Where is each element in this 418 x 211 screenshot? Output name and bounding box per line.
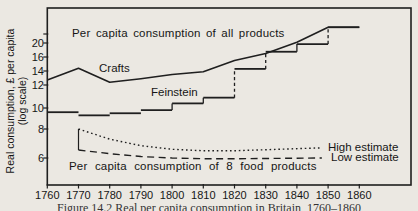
y-tick-label: 10 [18,102,44,114]
x-tick-label: 1780 [93,189,127,201]
book-figure: Real consumption, £ per capita (log scal… [0,0,418,211]
annotation-all-products: Per capita consumption of all products [72,27,285,39]
x-tick-label: 1810 [186,189,220,201]
low-estimate-line [79,150,322,159]
annotation-low-estimate-label: Low estimate [331,151,399,163]
annotation-feinstein-label: Feinstein [151,86,198,98]
y-tick-label: 12 [18,79,44,91]
high-estimate-line [79,129,322,151]
x-tick-label: 1850 [311,189,345,201]
annotation-food-products: Per capita consumption of 8 food product… [69,160,317,172]
y-tick-label: 16 [18,51,44,63]
figure-caption: Figure 14.2 Real per capita consumption … [0,201,418,211]
x-tick-label: 1760 [30,189,64,201]
x-tick-label: 1840 [280,189,314,201]
x-tick-label: 1860 [342,189,376,201]
x-tick-label: 1820 [218,189,252,201]
y-tick-label: 6 [18,152,44,164]
x-tick-label: 1800 [155,189,189,201]
annotation-crafts-label: Crafts [99,62,130,74]
x-tick-label: 1770 [62,189,96,201]
y-tick-label: 20 [18,37,44,49]
y-axis-label-line1: Real consumption, £ per capita [4,21,16,181]
y-tick-label: 8 [18,123,44,135]
x-tick-label: 1830 [249,189,283,201]
y-tick-label: 14 [18,65,44,77]
x-tick-label: 1790 [124,189,158,201]
